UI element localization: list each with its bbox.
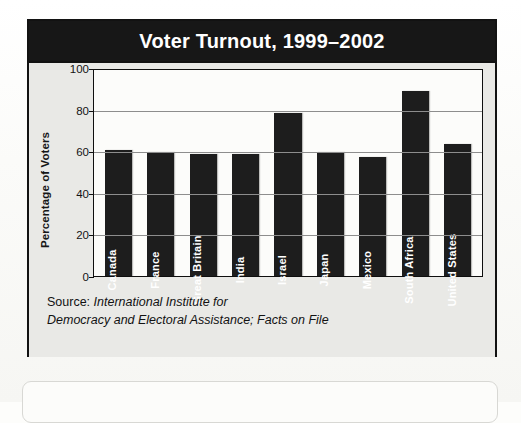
y-axis-tick-mark: [89, 277, 94, 278]
y-axis-tick-mark: [89, 69, 94, 70]
bar: Canada: [105, 150, 132, 276]
bar-category-label: Israel: [276, 255, 288, 285]
bar: France: [147, 152, 174, 276]
bar-slot: France: [139, 70, 181, 276]
bar-category-label: Mexico: [361, 251, 373, 290]
y-axis-tick-mark: [89, 235, 94, 236]
page-title: Voter Turnout, 1999–2002: [139, 30, 384, 53]
source-label: Source:: [47, 295, 90, 309]
y-axis-tick-label: 80: [55, 105, 89, 117]
y-axis-title: Percentage of Voters: [37, 115, 53, 265]
bar: India: [232, 154, 259, 276]
bar: Japan: [317, 152, 344, 276]
bar-category-label: Japan: [318, 254, 330, 287]
bar-slot: Great Britain: [182, 70, 224, 276]
y-axis-tick-label: 100: [55, 63, 89, 75]
y-axis-tick-label: 20: [55, 229, 89, 241]
bar: South Africa: [402, 91, 429, 276]
gridline: [94, 152, 482, 153]
chart-figure: Voter Turnout, 1999–2002 Percentage of V…: [27, 19, 497, 357]
source-line-1: International Institute for: [94, 295, 228, 309]
gridline: [94, 194, 482, 195]
y-axis-tick-mark: [89, 194, 94, 195]
y-axis-tick-label: 0: [55, 271, 89, 283]
y-axis-title-text: Percentage of Voters: [39, 132, 51, 248]
bar: United States: [444, 144, 471, 276]
bar-category-label: France: [149, 251, 161, 288]
y-axis-tick-label: 40: [55, 188, 89, 200]
adjacent-content-box: [22, 381, 498, 423]
bar-category-label: Canada: [106, 250, 118, 291]
chart-title-bar: Voter Turnout, 1999–2002: [29, 21, 495, 63]
bar-slot: Japan: [309, 70, 351, 276]
bar-slot: Canada: [97, 70, 139, 276]
y-axis-tick-mark: [89, 111, 94, 112]
gridline: [94, 111, 482, 112]
figure-body: Percentage of Voters 020406080100 Canada…: [29, 63, 495, 357]
bar-slot: South Africa: [394, 70, 436, 276]
plot-area: CanadaFranceGreat BritainIndiaIsraelJapa…: [93, 69, 483, 277]
source-note: Source: International Institute for Demo…: [47, 293, 481, 329]
bar-slot: Mexico: [352, 70, 394, 276]
bar: Mexico: [359, 157, 386, 276]
y-axis-tick-mark: [89, 152, 94, 153]
bar-slot: India: [224, 70, 266, 276]
bar-chart: Percentage of Voters 020406080100 Canada…: [29, 69, 495, 285]
bar-category-label: India: [234, 257, 246, 284]
bar: Great Britain: [190, 154, 217, 276]
source-line-2: Democracy and Electoral Assistance; Fact…: [47, 313, 329, 327]
bar-slot: Israel: [267, 70, 309, 276]
y-axis-tick-label: 60: [55, 146, 89, 158]
bar-slot: United States: [437, 70, 479, 276]
gridline: [94, 235, 482, 236]
y-axis-tick-labels: 020406080100: [55, 69, 89, 277]
bar-series: CanadaFranceGreat BritainIndiaIsraelJapa…: [94, 70, 482, 276]
